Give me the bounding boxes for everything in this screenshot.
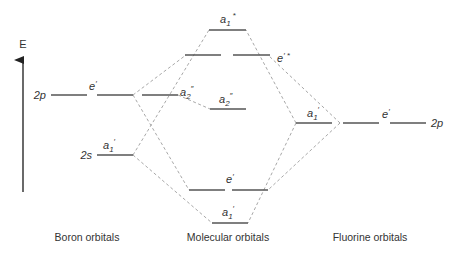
mo-a1-star-label: a1* [220,11,237,28]
mo-a2-label: a2″ [219,91,234,108]
fluorine-caption: Fluorine orbitals [333,231,408,243]
boron-orbitals: 2p e′ a2″ 2s a1′ [33,79,195,161]
corr-fa1-a1star [246,30,296,123]
boron-caption: Boron orbitals [55,231,120,243]
mo-a1-label: a1′ [222,204,235,221]
boron-e-label: e′ [89,79,97,92]
fluorine-e-label: e′ [382,107,390,120]
boron-a1-label: a1′ [103,137,116,154]
corr-b2s-a1bond [133,155,212,223]
energy-axis: E [19,38,26,192]
molecular-caption: Molecular orbitals [187,231,269,243]
mo-e-star-label: e′ * [277,51,291,64]
correlation-lines [133,30,340,223]
fluorine-a1-label: a1′ [307,105,320,122]
captions: Boron orbitals Molecular orbitals Fluori… [55,231,408,243]
boron-2s-label: 2s [79,149,92,161]
corr-fa1-a1bond [248,123,296,223]
boron-a2-label: a2″ [180,84,195,101]
corr-b2p-estar [133,55,186,95]
corr-fe-ebond [268,123,340,190]
mo-e-label: e′ [226,172,234,185]
corr-b2s-a1star [133,30,209,155]
energy-axis-label: E [19,38,26,50]
fluorine-orbitals: a1′ e′ 2p [296,105,443,129]
boron-2p-label: 2p [33,89,46,101]
corr-b2p-ebond [133,95,189,190]
fluorine-2p-label: 2p [430,117,443,129]
mo-diagram: E 2p e′ a2″ 2s a1′ a1* e′ [0,0,455,253]
corr-fe-estar [268,55,340,123]
molecular-orbitals: a1* e′ * a2″ e′ a1′ [185,11,291,223]
